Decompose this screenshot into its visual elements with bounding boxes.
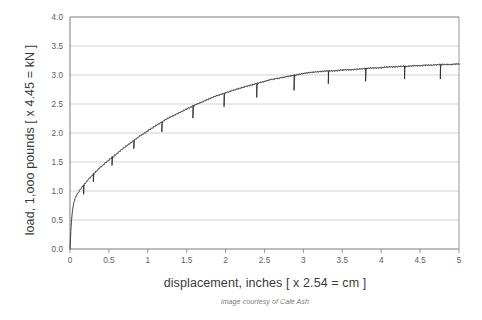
x-tick-label: 4.5: [414, 256, 426, 265]
x-tick-label: 2.5: [259, 256, 271, 265]
load-displacement-plot: 0.00.51.01.52.02.53.03.54.0 00.511.522.5…: [0, 0, 482, 320]
y-tick-labels: 0.00.51.01.52.02.53.03.54.0: [52, 13, 64, 254]
y-tick-label: 0.0: [52, 245, 64, 254]
y-tick-label: 0.5: [52, 216, 64, 225]
y-tick-label: 1.5: [52, 158, 64, 167]
x-tick-label: 1: [146, 256, 151, 265]
y-tick-label: 3.0: [52, 71, 64, 80]
y-tick-label: 1.0: [52, 187, 64, 196]
y-tick-label: 2.0: [52, 129, 64, 138]
gridlines: [70, 17, 459, 249]
x-tick-label: 3: [301, 256, 306, 265]
x-tick-label: 5: [457, 256, 462, 265]
x-tick-label: 2: [223, 256, 228, 265]
x-tick-label: 1.5: [181, 256, 193, 265]
image-credit: image courtesy of Cale Ash: [70, 298, 460, 305]
x-tick-label: 3.5: [337, 256, 349, 265]
y-tick-label: 3.5: [52, 42, 64, 51]
y-tick-label: 2.5: [52, 100, 64, 109]
x-tick-labels: 00.511.522.533.544.55: [68, 256, 462, 265]
x-axis-label: displacement, inches [ x 2.54 = cm ]: [70, 276, 460, 290]
data-series-line: [70, 63, 459, 249]
x-tick-label: 0.5: [103, 256, 115, 265]
x-tick-marks: [70, 249, 459, 253]
x-tick-label: 0: [68, 256, 73, 265]
x-tick-label: 4: [379, 256, 384, 265]
chart-figure: load, 1,ooo pounds [ x 4.45 = kN ] 0.00.…: [0, 0, 482, 320]
y-tick-label: 4.0: [52, 13, 64, 22]
